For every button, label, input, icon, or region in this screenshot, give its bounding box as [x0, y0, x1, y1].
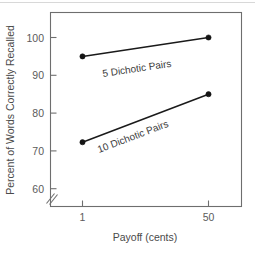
y-tick-label-90: 90 [32, 69, 44, 81]
series-10-point-1 [80, 140, 85, 145]
y-tick-label-100: 100 [26, 32, 44, 44]
x-axis-ticks [83, 201, 209, 207]
y-tick-label-60: 60 [32, 183, 44, 195]
series-5-dichotic-pairs: 5 Dichotic Pairs [80, 35, 211, 79]
y-axis-ticks [51, 38, 57, 189]
y-axis-title: Percent of Words Correctly Recalled [4, 25, 16, 195]
line-chart: 100 90 80 70 60 1 50 Payoff (cents) Perc… [0, 0, 255, 255]
x-tick-label-1: 1 [80, 211, 86, 223]
x-tick-label-50: 50 [203, 211, 215, 223]
series-5-point-1 [80, 54, 85, 59]
y-tick-label-70: 70 [32, 145, 44, 157]
plot-frame [51, 13, 242, 207]
series-5-point-50 [206, 35, 211, 40]
x-axis-title: Payoff (cents) [113, 231, 178, 243]
chart-page: 100 90 80 70 60 1 50 Payoff (cents) Perc… [0, 0, 255, 255]
y-axis-break-icon [47, 194, 58, 205]
series-5-line [83, 38, 209, 57]
y-tick-label-80: 80 [32, 107, 44, 119]
series-5-label: 5 Dichotic Pairs [102, 58, 172, 79]
series-10-dichotic-pairs: 10 Dichotic Pairs [80, 92, 211, 155]
series-10-point-50 [206, 92, 211, 97]
